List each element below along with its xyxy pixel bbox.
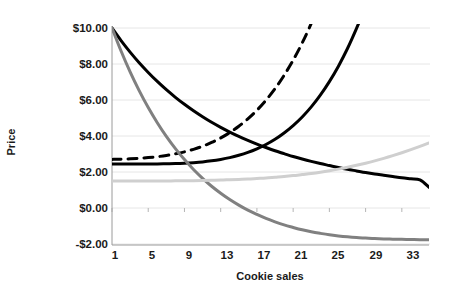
plot-area	[0, 0, 458, 296]
data-series-group	[112, 0, 429, 240]
series-line-black-dashed-increasing	[112, 0, 429, 159]
x-tick-marks	[112, 208, 402, 212]
cookie-sales-price-chart: Price $10.00 $8.00 $6.00 $4.00 $2.00 $0.…	[0, 0, 458, 296]
gridlines	[112, 28, 430, 244]
